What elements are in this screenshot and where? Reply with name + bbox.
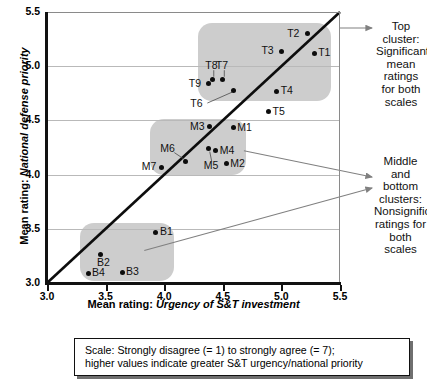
data-point-T6: [231, 88, 236, 93]
data-point-B4: [86, 271, 91, 276]
top-cluster-annotation: Top cluster: Significant mean ratings fo…: [376, 20, 426, 108]
data-point-label-B1: B1: [160, 225, 173, 237]
x-axis-line: [45, 282, 341, 285]
overlay-vectors: [0, 0, 427, 384]
data-point-label-T9: T9: [189, 77, 201, 89]
data-point-label-M3: M3: [190, 120, 205, 132]
y-tick-label-5: 5.5: [6, 5, 40, 17]
x-tick-label-3: 4.5: [203, 290, 243, 302]
data-point-label-T2: T2: [287, 27, 299, 39]
data-point-label-B4: B4: [92, 266, 105, 278]
data-point-label-T8: T8: [205, 59, 217, 71]
x-tick-label-4: 5.0: [261, 290, 301, 302]
x-tick-label-2: 4.0: [144, 290, 184, 302]
x-tick-label-0: 3.0: [27, 290, 67, 302]
y-axis-line: [45, 12, 48, 284]
plot-border-top: [47, 12, 340, 13]
caption-box: Scale: Strongly disagree (= 1) to strong…: [74, 338, 410, 376]
data-point-label-T5: T5: [273, 105, 285, 117]
data-point-M6: [183, 159, 188, 164]
x-tick-label-5: 5.5: [320, 290, 360, 302]
data-point-label-M2: M2: [230, 157, 245, 169]
data-point-M7: [159, 165, 164, 170]
plot-border-right: [339, 12, 340, 283]
middle-bottom-cluster-annotation: Middle and bottom clusters: Nonsignifica…: [374, 155, 427, 256]
caption-text: Scale: Strongly disagree (= 1) to strong…: [85, 344, 363, 371]
middle-cluster-arrow: [244, 151, 372, 177]
y-tick-label-3: 4.5: [6, 113, 40, 125]
data-point-label-M5: M5: [204, 159, 219, 171]
data-point-label-B3: B3: [126, 265, 139, 277]
data-point-T4: [274, 89, 279, 94]
identity-line: [47, 12, 340, 283]
data-point-label-T3: T3: [261, 44, 273, 56]
y-tick-label-0: 3.0: [6, 276, 40, 288]
scatter-plot-figure: Mean rating: National defense priority M…: [0, 0, 427, 384]
data-point-label-M7: M7: [142, 160, 157, 172]
data-point-T1: [312, 51, 317, 56]
data-point-label-T1: T1: [318, 46, 330, 58]
data-point-label-M6: M6: [160, 142, 175, 154]
leader-T6: [207, 92, 232, 103]
data-point-label-T6: T6: [190, 97, 202, 109]
y-tick-label-1: 3.5: [6, 222, 40, 234]
y-tick-label-2: 4.0: [6, 168, 40, 180]
x-tick-label-1: 3.5: [86, 290, 126, 302]
data-point-B3: [120, 270, 125, 275]
data-point-label-M4: M4: [220, 144, 235, 156]
data-point-T3: [279, 49, 284, 54]
y-tick-label-4: 5.0: [6, 59, 40, 71]
bottom-cluster-arrow: [144, 188, 372, 250]
data-point-T2: [305, 31, 310, 36]
data-point-T8: [210, 77, 215, 82]
data-point-label-T4: T4: [281, 84, 293, 96]
data-point-label-M1: M1: [237, 121, 252, 133]
